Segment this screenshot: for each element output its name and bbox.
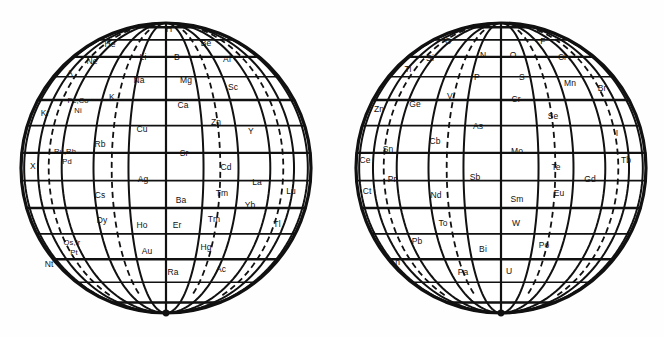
element-label-Cb: Cb: [429, 136, 440, 146]
element-label-S: S: [519, 72, 525, 82]
element-label-Mn: Mn: [564, 78, 576, 88]
element-label-Po: Po: [539, 240, 550, 250]
element-label-Pd: Pd: [62, 157, 72, 166]
element-label-Ag: Ag: [138, 174, 149, 184]
element-label-C: C: [445, 36, 451, 46]
element-label-Sn: Sn: [383, 144, 394, 154]
right-globe: CFNOSiClTiPSMnVBrCrGeZnSeAsICbSnMoCeTeTb…: [356, 23, 646, 316]
element-label-Be: Be: [201, 38, 212, 48]
element-label-Hg: Hg: [200, 242, 211, 252]
element-label-N: N: [480, 50, 486, 60]
element-label-Kr: Kr: [41, 108, 50, 118]
element-label-Ni: Ni: [74, 106, 82, 115]
element-label-Se: Se: [548, 111, 559, 121]
element-label-Nt: Nt: [45, 259, 54, 269]
element-label-Sr: Sr: [180, 148, 189, 158]
element-label-La: La: [252, 177, 262, 187]
left-globe: HHeBeLiBNeAlANaMgScKFe,CoNiCaKrZnCuYRbRu…: [21, 23, 311, 316]
element-label-U: U: [506, 266, 512, 276]
element-label-To: To: [438, 218, 447, 228]
element-label-X: X: [30, 161, 36, 171]
element-label-Tl: Tl: [273, 219, 280, 229]
element-label-H: H: [166, 24, 172, 34]
element-label-Pb: Pb: [412, 236, 423, 246]
element-label-He: He: [104, 39, 115, 49]
globe-right-south-pole-node: [498, 310, 505, 317]
element-label-Cs: Cs: [95, 190, 106, 200]
element-label-Cr: Cr: [511, 94, 520, 104]
element-label-Ba: Ba: [176, 195, 187, 205]
globe-left-south-pole-node: [163, 310, 170, 317]
element-label-Er: Er: [173, 220, 182, 230]
element-label-Cl: Cl: [558, 52, 566, 62]
element-label-Li: Li: [140, 52, 147, 62]
element-label-Si: Si: [426, 53, 434, 63]
element-label-Eu: Eu: [554, 188, 565, 198]
element-label-Sb: Sb: [470, 172, 481, 182]
element-label-Br: Br: [598, 83, 607, 93]
element-label-Pa: Pa: [458, 267, 469, 277]
element-label-Ct: Ct: [363, 186, 372, 196]
element-label-As: As: [473, 121, 483, 131]
element-label-F: F: [540, 36, 545, 46]
element-label-Pt: Pt: [70, 248, 78, 257]
element-label-Rb: Rb: [94, 139, 105, 149]
element-label-V: V: [447, 91, 453, 101]
element-label-Y: Y: [248, 126, 254, 136]
element-label-Ti: Ti: [405, 64, 412, 74]
element-label-Ac: Ac: [216, 264, 227, 274]
element-label-Tm: Tm: [216, 188, 228, 198]
element-label-K: K: [109, 92, 115, 102]
element-label-Ho: Ho: [136, 220, 147, 230]
element-label-Te: Te: [551, 162, 560, 172]
element-label-Lu: Lu: [286, 186, 296, 196]
element-label-Yb: Yb: [245, 200, 256, 210]
element-label-Ca: Ca: [177, 100, 188, 110]
element-label-O: O: [510, 50, 517, 60]
element-label-P: P: [474, 72, 480, 82]
element-label-Bi: Bi: [479, 244, 487, 254]
element-label-A: A: [67, 68, 73, 78]
element-label-Gd: Gd: [584, 174, 596, 184]
element-label-Fe-Co: Fe,Co: [67, 96, 88, 105]
element-label-W: W: [512, 218, 520, 228]
element-label-B: B: [174, 52, 180, 62]
element-label-Ge: Ge: [409, 99, 421, 109]
element-label-Dy: Dy: [97, 215, 108, 225]
element-label-I: I: [616, 128, 618, 138]
element-label-Os-Ir: Os,Ir: [64, 238, 81, 247]
element-label-Zn: Zn: [374, 104, 384, 114]
element-label-Ru-Rh: Ru,Rh: [54, 147, 76, 156]
element-label-Mo: Mo: [511, 146, 523, 156]
element-label-Pr: Pr: [388, 174, 397, 184]
element-label-Zn: Zn: [211, 117, 221, 127]
element-label-Sc: Sc: [228, 82, 239, 92]
element-label-Cu: Cu: [136, 124, 147, 134]
element-label-Th: Th: [390, 257, 400, 267]
element-label-Na: Na: [133, 75, 144, 85]
element-label-Mg: Mg: [180, 75, 192, 85]
element-label-Ce: Ce: [359, 155, 370, 165]
element-label-Nd: Nd: [430, 190, 441, 200]
element-label-Ne: Ne: [86, 56, 97, 66]
periodic-globes-svg: HHeBeLiBNeAlANaMgScKFe,CoNiCaKrZnCuYRbRu…: [0, 0, 664, 337]
element-label-Ra: Ra: [167, 267, 178, 277]
element-label-Sm: Sm: [511, 194, 524, 204]
element-label-Tb: Tb: [621, 155, 631, 165]
element-label-Au: Au: [142, 246, 153, 256]
element-label-Tm: Tm: [208, 214, 220, 224]
element-label-Cd: Cd: [220, 162, 231, 172]
figure-canvas: HHeBeLiBNeAlANaMgScKFe,CoNiCaKrZnCuYRbRu…: [0, 0, 664, 337]
element-label-Al: Al: [223, 54, 231, 64]
